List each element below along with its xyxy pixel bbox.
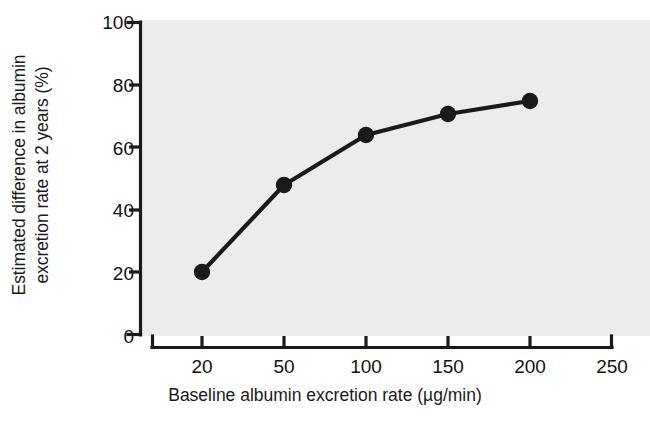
x-tick-label: 50 [249, 357, 319, 376]
x-axis-tick-labels: 20 50 100 150 200 250 [0, 0, 650, 429]
x-tick-label: 250 [577, 357, 647, 376]
x-tick-label: 20 [167, 357, 237, 376]
x-axis-title: Baseline albumin excretion rate (µg/min) [0, 385, 650, 406]
figure: Estimated difference in albumin excretio… [0, 0, 650, 429]
x-tick-label: 150 [413, 357, 483, 376]
x-tick-label: 100 [331, 357, 401, 376]
x-tick-label: 200 [495, 357, 565, 376]
